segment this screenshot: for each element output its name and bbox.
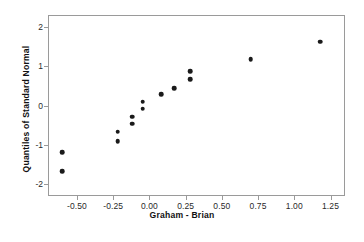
y-axis-title: Quantiles of Standard Normal: [21, 29, 31, 189]
y-tick-label: 2: [30, 22, 43, 32]
y-tick-label: -1: [30, 140, 43, 150]
plot-area-frame: [48, 15, 345, 196]
x-tick-mark: [331, 196, 332, 200]
x-tick-mark: [113, 196, 114, 200]
x-axis-title: Graham - Brian: [0, 210, 364, 220]
x-tick-mark: [294, 196, 295, 200]
x-tick-mark: [149, 196, 150, 200]
y-tick-label: -2: [30, 179, 43, 189]
y-tick-mark: [44, 66, 48, 67]
qq-plot-chart: -0.50-0.250.000.250.500.751.001.25 -2-10…: [0, 0, 364, 242]
x-tick-mark: [222, 196, 223, 200]
y-tick-label: 1: [30, 61, 43, 71]
x-tick-mark: [186, 196, 187, 200]
y-tick-mark: [44, 106, 48, 107]
y-tick-mark: [44, 184, 48, 185]
y-tick-mark: [44, 145, 48, 146]
y-tick-label: 0: [30, 101, 43, 111]
y-tick-mark: [44, 27, 48, 28]
x-tick-mark: [258, 196, 259, 200]
x-tick-mark: [77, 196, 78, 200]
